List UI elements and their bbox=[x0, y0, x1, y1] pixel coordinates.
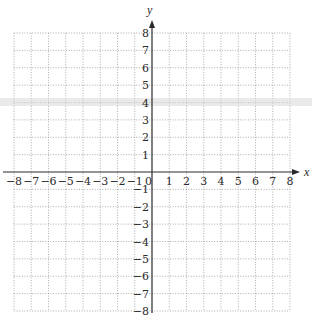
x-tick-label: −3 bbox=[92, 175, 108, 188]
scan-artifact-band bbox=[0, 98, 312, 106]
x-tick-label: 3 bbox=[200, 175, 207, 188]
x-tick-label: −5 bbox=[58, 175, 74, 188]
y-tick-label: 8 bbox=[142, 27, 149, 40]
y-tick-label: 7 bbox=[142, 44, 149, 57]
y-tick-label: −7 bbox=[133, 288, 149, 301]
x-tick-label: 6 bbox=[252, 175, 259, 188]
y-tick-label: −2 bbox=[133, 201, 149, 214]
x-tick-label: 5 bbox=[235, 175, 242, 188]
x-tick-label: −8 bbox=[6, 175, 22, 188]
y-tick-label: 5 bbox=[142, 79, 149, 92]
x-tick-label: 2 bbox=[183, 175, 190, 188]
y-tick-label: −5 bbox=[133, 253, 149, 266]
x-tick-label: 8 bbox=[287, 175, 294, 188]
y-tick-label: 2 bbox=[142, 131, 149, 144]
y-tick-label: −8 bbox=[133, 305, 149, 318]
coordinate-plane: x y 0 −8−7−6−5−4−3−2−112345678 −8−7−6−5−… bbox=[0, 0, 312, 325]
y-tick-label: −3 bbox=[133, 218, 149, 231]
x-tick-label: 1 bbox=[166, 175, 173, 188]
y-tick-label: 3 bbox=[142, 114, 149, 127]
x-tick-label: −2 bbox=[109, 175, 125, 188]
x-tick-label: −4 bbox=[75, 175, 91, 188]
axes: x y 0 bbox=[3, 3, 310, 313]
y-tick-label: −6 bbox=[133, 270, 149, 283]
x-tick-label: −7 bbox=[23, 175, 39, 188]
y-axis-label: y bbox=[146, 3, 153, 17]
x-tick-label: 7 bbox=[269, 175, 276, 188]
x-tick-label: −6 bbox=[40, 175, 56, 188]
y-tick-label: −4 bbox=[133, 236, 149, 249]
x-tick-label: 4 bbox=[218, 175, 225, 188]
x-axis-label: x bbox=[303, 165, 310, 179]
y-tick-label: 1 bbox=[142, 149, 149, 162]
y-tick-label: −1 bbox=[133, 183, 149, 196]
y-axis-arrow-icon bbox=[149, 20, 155, 28]
y-tick-label: 4 bbox=[142, 97, 149, 110]
y-tick-label: 6 bbox=[142, 62, 149, 75]
